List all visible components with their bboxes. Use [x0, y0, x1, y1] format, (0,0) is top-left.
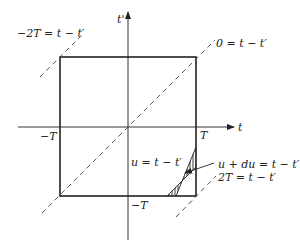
label-zero-line: 0 = t − t′	[216, 37, 267, 50]
label-u-line: u = t − t′	[131, 156, 182, 169]
label-u-plus-du-line: u + du = t − t′	[218, 158, 300, 171]
label-plus-2T-line: 2T = t − t′	[217, 171, 277, 184]
pointer-arrow	[185, 163, 214, 173]
diagram-canvas: t t' −T T −T −2T = t − t′ 0 = t − t′ u =…	[0, 0, 300, 249]
tick-label-pos-T-horizontal: T	[200, 129, 209, 142]
label-minus-2T-line: −2T = t − t′	[17, 27, 85, 40]
tick-label-neg-T-horizontal: −T	[40, 130, 58, 143]
tick-label-neg-T-vertical: −T	[131, 199, 149, 212]
t-prime-axis-label: t'	[117, 13, 124, 26]
t-axis-label: t	[238, 121, 243, 134]
